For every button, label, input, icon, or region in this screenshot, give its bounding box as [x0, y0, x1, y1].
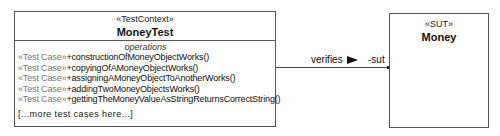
operations-compartment: operations «Test Case»+constructionOfMon…	[15, 41, 275, 120]
operation-stereotype: «Test Case»	[18, 52, 66, 62]
direction-triangle-icon	[347, 56, 358, 64]
class-stereotype: «TestContext»	[15, 14, 275, 25]
operation-stereotype: «Test Case»	[18, 84, 66, 94]
association-label: verifies	[311, 54, 358, 66]
sut-class-money: «SUT» Money	[389, 13, 489, 128]
operation-item: «Test Case»+addingTwoMoneyObjectsWorks()	[18, 84, 273, 95]
test-context-class-money-test: «TestContext» MoneyTest operations «Test…	[14, 11, 276, 127]
class-name: Money	[390, 30, 488, 44]
operation-item: «Test Case»+gettingTheMoneyValueAsString…	[18, 94, 273, 105]
class-header: «SUT» Money	[390, 14, 488, 44]
association-line	[276, 67, 389, 68]
more-test-cases-note: [...more test cases here...]	[18, 109, 273, 120]
operations-title: operations	[18, 42, 273, 52]
operation-stereotype: «Test Case»	[18, 94, 66, 104]
class-name: MoneyTest	[15, 25, 275, 39]
operation-signature: +copyingOfAMoneyObjectWorks()	[66, 63, 198, 73]
class-header: «TestContext» MoneyTest	[15, 12, 275, 41]
association-name: verifies	[311, 54, 343, 66]
class-stereotype: «SUT»	[390, 19, 488, 30]
operation-stereotype: «Test Case»	[18, 73, 66, 83]
association-role-label: -sut	[368, 54, 385, 66]
operation-signature: +assigningAMoneyObjectToAnotherWorks()	[66, 73, 235, 83]
operation-signature: +addingTwoMoneyObjectsWorks()	[66, 84, 199, 94]
operation-item: «Test Case»+constructionOfMoneyObjectWor…	[18, 52, 273, 63]
operation-signature: +constructionOfMoneyObjectWorks()	[66, 52, 209, 62]
operation-stereotype: «Test Case»	[18, 63, 66, 73]
operation-item: «Test Case»+assigningAMoneyObjectToAnoth…	[18, 73, 273, 84]
operation-signature: +gettingTheMoneyValueAsStringReturnsCorr…	[66, 94, 280, 104]
operation-item: «Test Case»+copyingOfAMoneyObjectWorks()	[18, 63, 273, 74]
